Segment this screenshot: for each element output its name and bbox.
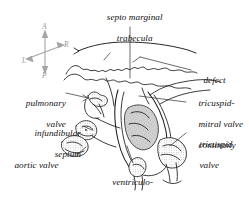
- label-ventriculo-infundibular-fold: ventriculo- infundibular fold: [76, 167, 180, 197]
- compass-letter-left: L: [22, 56, 26, 65]
- pulmonary-valve-detail: [85, 92, 108, 118]
- label-tricuspid-valve: tricuspid valve: [190, 129, 248, 181]
- pulmonary-valve-line1: pulmonary: [26, 98, 66, 108]
- label-pulmonary-valve: pulmonary valve: [4, 88, 66, 140]
- leader-defect-2: [133, 57, 140, 62]
- tricuspid-mitral-continuity-line2: mitral valve: [198, 119, 243, 129]
- infundibular-septum-line2: septum: [55, 149, 81, 159]
- leader-ventriculo-infundibular-fold: [127, 146, 133, 163]
- pulmonary-valve-line2: valve: [46, 119, 66, 129]
- ventricular-septal-defect-region: [124, 105, 158, 150]
- septo-marginal-trabecula-line2: trabecula: [117, 33, 153, 43]
- defect-text: defect: [203, 75, 225, 85]
- compass-letter-posterior: P: [42, 71, 47, 80]
- anatomical-figure: septo marginal trabecula defect tricuspi…: [0, 0, 249, 197]
- septo-marginal-trabecula-line1: septo marginal: [107, 12, 163, 22]
- tricuspid-valve-line2: valve: [199, 160, 219, 170]
- compass-letter-anterior: A: [42, 22, 47, 31]
- ventriculo-infundibular-fold-line1: ventriculo-: [112, 177, 153, 187]
- tricuspid-mitral-continuity-line1: tricuspid-: [198, 98, 234, 108]
- leader-ventricular-wall: [104, 53, 110, 60]
- orientation-compass-glyph: [26, 31, 63, 73]
- label-septo-marginal-trabecula: septo marginal trabecula: [84, 2, 176, 54]
- compass-letter-right: R: [64, 40, 69, 49]
- leader-pulmonary-valve: [66, 93, 88, 98]
- tricuspid-valve-line1: tricuspid: [199, 139, 232, 149]
